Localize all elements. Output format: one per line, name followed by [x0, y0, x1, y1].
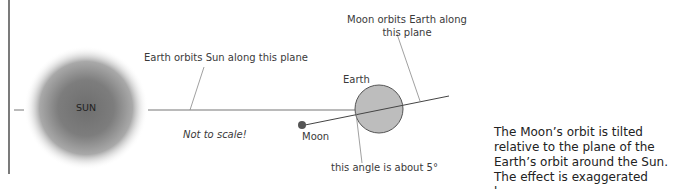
- earth-label: Earth: [343, 74, 370, 85]
- caption: The Moon’s orbit is tilted relative to t…: [494, 125, 676, 189]
- earth: [355, 85, 403, 133]
- moon-plane-leader: [397, 34, 420, 101]
- moon-plane-label-line1: Moon orbits Earth along: [330, 14, 484, 25]
- scale-note: Not to scale!: [183, 129, 247, 140]
- moon-label: Moon: [302, 131, 329, 142]
- angle-label: this angle is about 5°: [331, 162, 438, 173]
- moon-plane-label-line2: this plane: [330, 27, 484, 38]
- moon: [298, 121, 306, 129]
- earth-plane-leader: [190, 67, 204, 110]
- earth-plane-label: Earth orbits Sun along this plane: [144, 52, 308, 63]
- sun-label: SUN: [76, 102, 96, 113]
